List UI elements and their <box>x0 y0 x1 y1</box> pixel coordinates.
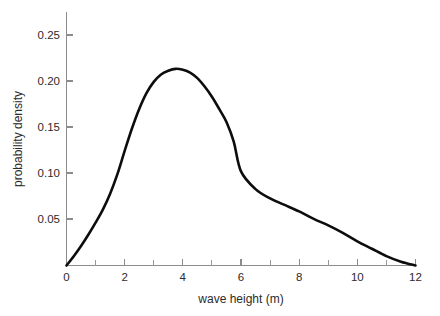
y-axis-tick-labels: 0.05 0.10 0.15 0.20 0.25 <box>38 29 60 225</box>
chart-figure: 0.05 0.10 0.15 0.20 0.25 0 <box>0 0 440 316</box>
y-tick-label-1: 0.10 <box>38 167 60 179</box>
x-tick-label-4: 4 <box>180 271 187 283</box>
chart-plot-area: 0.05 0.10 0.15 0.20 0.25 0 <box>0 0 440 316</box>
density-curve <box>67 69 416 266</box>
y-tick-label-2: 0.15 <box>38 121 60 133</box>
y-tick-label-3: 0.20 <box>38 75 60 87</box>
y-tick-label-0: 0.05 <box>38 213 60 225</box>
y-axis-title: probability density <box>11 91 25 187</box>
x-axis-tick-labels: 0 2 4 6 8 10 12 <box>63 271 422 283</box>
y-tick-label-4: 0.25 <box>38 29 60 41</box>
x-tick-label-2: 2 <box>121 271 127 283</box>
x-axis-ticks <box>67 259 416 266</box>
x-tick-label-12: 12 <box>409 271 422 283</box>
x-tick-label-0: 0 <box>63 271 69 283</box>
x-tick-label-8: 8 <box>296 271 302 283</box>
y-axis-ticks <box>67 35 74 219</box>
x-tick-label-6: 6 <box>238 271 244 283</box>
x-tick-label-10: 10 <box>351 271 364 283</box>
x-axis-title: wave height (m) <box>197 292 283 306</box>
